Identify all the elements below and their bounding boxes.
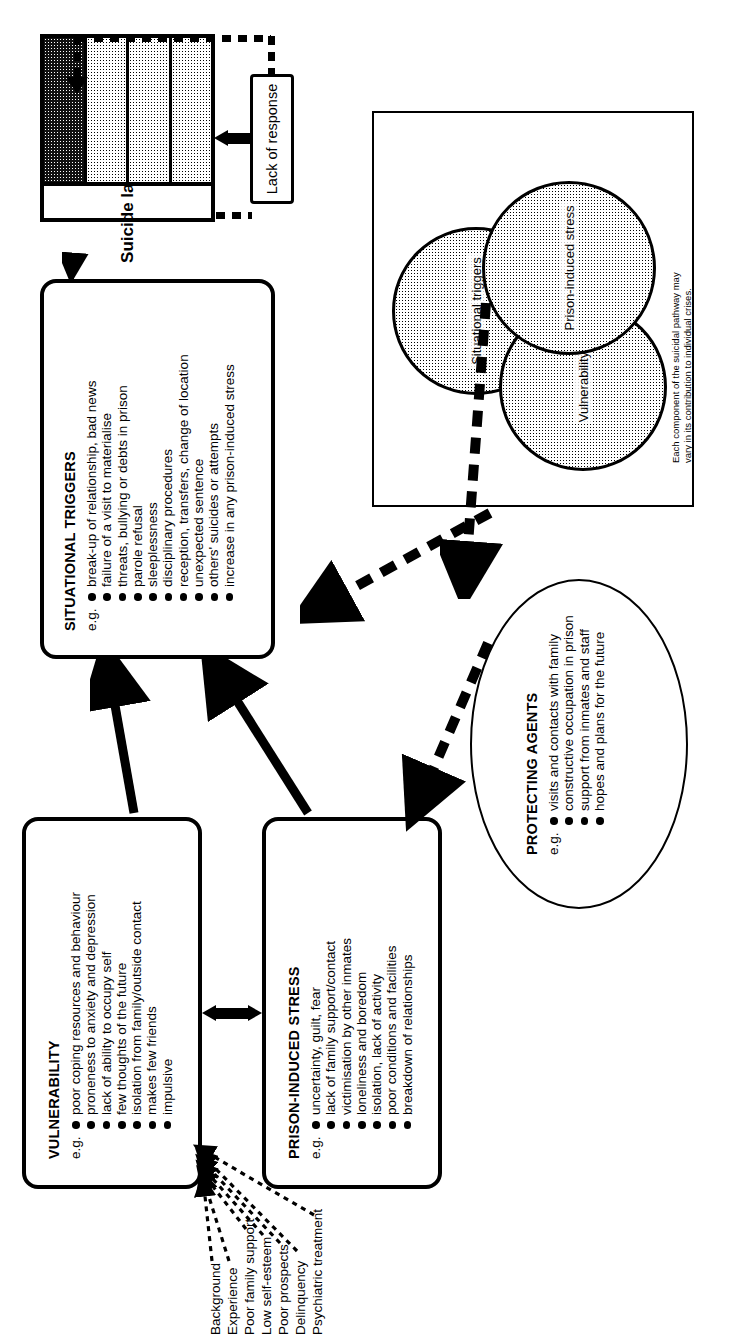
suicide-ladder-title: Suicide ladder1 — [44, 182, 211, 218]
list-item: parole refusal — [130, 354, 145, 601]
vulnerability-box: VULNERABILITY e.g. poor coping resources… — [22, 817, 202, 1189]
situational-triggers-eg: e.g. — [84, 601, 99, 631]
prison-induced-stress-list: uncertainty, guilt, fear lack of family … — [308, 938, 415, 1129]
suicide-ladder-rungs — [44, 38, 211, 182]
list-item: proneness to anxiety and depression — [83, 892, 98, 1129]
protecting-agents-title: PROTECTING AGENTS — [524, 615, 540, 855]
ladder-to-lack-dash-vertical — [216, 212, 252, 219]
ladder-rung-3 — [87, 38, 130, 182]
vulnerability-stress-arrow-head-down — [248, 1006, 262, 1022]
lack-to-ladder-dash-vertical — [78, 35, 271, 42]
prison-induced-stress-box: PRISON-INDUCED STRESS e.g. uncertainty, … — [262, 817, 442, 1189]
background-factor-feeder-lines — [170, 1139, 350, 1339]
protecting-to-ladder-dashed-arrow — [440, 299, 520, 599]
list-item: lack of ability to occupy self — [99, 892, 114, 1129]
situational-triggers-list: break-up of relationship, bad news failu… — [84, 354, 237, 601]
venn-note-line-2: vary in its contribution to individual c… — [682, 272, 694, 463]
list-item: poor conditions and facilities — [384, 938, 399, 1129]
triggers-to-ladder-arrow-head — [214, 131, 228, 147]
list-item: reception, transfers, change of location — [176, 354, 191, 601]
protecting-agents-eg: e.g. — [546, 825, 561, 855]
list-item: isolation from family/outside contact — [129, 892, 144, 1129]
lack-of-response-label: Lack of response — [264, 84, 280, 194]
list-item: lack of family support/contact — [323, 938, 338, 1129]
vulnerability-list: poor coping resources and behaviour pron… — [68, 892, 175, 1129]
venn-circle-label: Vulnerability — [575, 350, 592, 424]
list-item: support from inmates and staff — [577, 615, 592, 825]
list-item: makes few friends — [144, 892, 159, 1129]
vulnerability-stress-double-arrow-shaft — [214, 1008, 250, 1019]
list-item: unexpected sentence — [191, 354, 206, 601]
list-item: disciplinary procedures — [160, 354, 175, 601]
list-item: increase in any prison-induced stress — [222, 354, 237, 601]
diagram-canvas: communication escape distress despair Su… — [0, 0, 734, 1339]
lack-to-ladder-arrow-head — [66, 77, 88, 94]
vulnerability-eg: e.g. — [68, 1129, 83, 1159]
protecting-agents-list: visits and contacts with family construc… — [546, 615, 607, 825]
list-item: loneliness and boredom — [354, 938, 369, 1129]
venn-note-line-1: Each component of the suicidal pathway m… — [670, 272, 682, 463]
list-item: victimisation by other inmates — [339, 938, 354, 1129]
vulnerability-stress-arrow-head-up — [202, 1006, 216, 1022]
suicide-ladder-group: communication escape distress despair Su… — [40, 34, 215, 244]
protecting-to-stress-dashed-arrow — [400, 629, 520, 839]
vulnerability-to-triggers-arrow — [90, 657, 160, 817]
list-item: breakdown of relationships — [400, 938, 415, 1129]
ladder-rung-distress — [172, 38, 212, 182]
vulnerability-title: VULNERABILITY — [46, 892, 62, 1159]
venn-panel: Situational triggers Vulnerability Priso… — [372, 111, 694, 507]
list-item: constructive occupation in prison — [561, 615, 576, 825]
list-item: poor coping resources and behaviour — [68, 892, 83, 1129]
venn-note: Each component of the suicidal pathway m… — [670, 272, 694, 463]
list-item: uncertainty, guilt, fear — [308, 938, 323, 1129]
list-item: impulsive — [160, 892, 175, 1129]
ladder-rung-2 — [129, 38, 172, 182]
suicide-ladder: Suicide ladder1 — [40, 34, 215, 222]
list-item: isolation, lack of activity — [369, 938, 384, 1129]
list-item: others' suicides or attempts — [206, 354, 221, 601]
list-item: sleeplessness — [145, 354, 160, 601]
venn-circle-label: Prison-induced stress — [561, 204, 578, 333]
stress-to-triggers-arrow — [190, 657, 320, 817]
list-item: few thoughts of the future — [114, 892, 129, 1129]
list-item: break-up of relationship, bad news — [84, 354, 99, 601]
list-item: failure of a visit to materialise — [99, 354, 114, 601]
situational-triggers-title: SITUATIONAL TRIGGERS — [62, 354, 78, 631]
list-item: visits and contacts with family — [546, 615, 561, 825]
list-item: threats, bullying or debts in prison — [115, 354, 130, 601]
prison-induced-stress-title: PRISON-INDUCED STRESS — [286, 938, 302, 1159]
lack-to-ladder-dash-top — [74, 35, 81, 77]
list-item: hopes and plans for the future — [592, 615, 607, 825]
lack-of-response-box: Lack of response — [250, 74, 294, 204]
situational-triggers-box: SITUATIONAL TRIGGERS e.g. break-up of re… — [40, 279, 275, 659]
